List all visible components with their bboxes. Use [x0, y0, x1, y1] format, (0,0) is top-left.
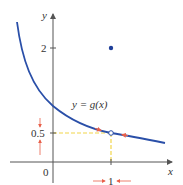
function-curve [17, 22, 165, 143]
x-tick-label-1: 1 [108, 175, 114, 185]
limit-graph-figure: y x 2 0.5 0 1 y = g(x) [0, 0, 183, 185]
origin-label: 0 [43, 166, 49, 178]
y-tick-label-2: 2 [41, 42, 47, 54]
open-point [109, 131, 114, 136]
limit-arrows [40, 118, 131, 181]
filled-point [109, 46, 113, 50]
function-label: y = g(x) [71, 98, 108, 111]
x-axis-label: x [167, 165, 173, 177]
dashed-guides [53, 133, 111, 162]
y-axis-label: y [41, 9, 47, 21]
y-tick-label-0-5: 0.5 [31, 127, 45, 139]
